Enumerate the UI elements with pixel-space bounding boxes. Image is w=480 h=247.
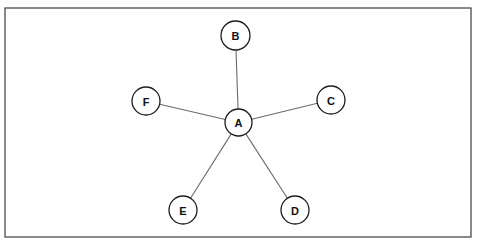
node-d[interactable]: D xyxy=(281,196,309,224)
node-b[interactable]: B xyxy=(221,21,250,50)
node-label-d: D xyxy=(291,205,299,217)
node-a[interactable]: A xyxy=(225,109,252,136)
node-e[interactable]: E xyxy=(169,196,197,224)
node-label-e: E xyxy=(179,205,186,217)
node-c[interactable]: C xyxy=(317,86,345,114)
node-label-c: C xyxy=(327,95,335,107)
node-f[interactable]: F xyxy=(132,87,160,115)
node-label-b: B xyxy=(232,30,240,42)
node-label-a: A xyxy=(235,117,243,129)
node-label-f: F xyxy=(143,96,150,108)
diagram-canvas: ABCDEF xyxy=(0,0,480,247)
star-topology-diagram: ABCDEF xyxy=(0,0,480,247)
